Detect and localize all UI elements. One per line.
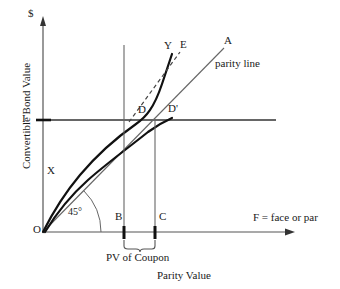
convertible-curve-lower (45, 118, 172, 232)
investment-value-label: I (22, 113, 26, 124)
convertible-curve-X (43, 54, 172, 232)
point-label-A: A (224, 35, 232, 46)
parity-value-label: Parity Value (157, 270, 211, 281)
parity-line (43, 48, 224, 232)
x-axis (43, 229, 295, 236)
point-label-C: C (159, 211, 166, 222)
origin-label: O (33, 224, 41, 235)
point-label-D: D (138, 104, 146, 115)
point-label-D-prime: D' (168, 103, 178, 114)
curve-label-X: X (47, 165, 55, 176)
parity-line-annotation: parity line (215, 58, 260, 69)
point-label-B: B (115, 211, 122, 222)
pv-of-coupon-label: PV of Coupon (106, 252, 169, 263)
curve-label-Y: Y (164, 40, 172, 51)
dollar-symbol: $ (28, 8, 34, 19)
y-axis (40, 16, 46, 232)
point-label-E: E (180, 39, 187, 50)
x-axis-label: F = face or par (253, 212, 318, 223)
angle-label-45: 45° (68, 207, 82, 217)
